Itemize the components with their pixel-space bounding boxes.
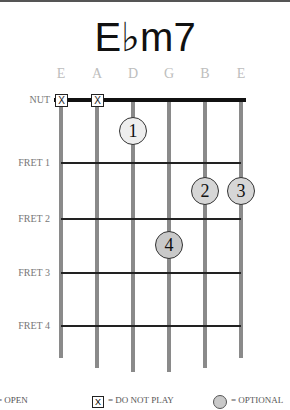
fret-label-1: FRET 1: [0, 157, 50, 168]
fret-label-2: FRET 2: [0, 213, 50, 224]
string-label-a: A: [87, 66, 107, 82]
fret-1-line: [61, 162, 241, 164]
fret-3-line: [61, 272, 241, 274]
finger-dot-4: 4: [155, 231, 183, 259]
string-b: [203, 100, 207, 368]
mute-x-icon-a: X: [91, 94, 104, 107]
nut-label: NUT: [0, 94, 50, 105]
legend-optional: = OPTIONAL: [231, 395, 283, 405]
legend-open: = OPEN: [0, 395, 28, 405]
mute-x-icon-low-e: X: [55, 94, 68, 107]
string-low-e: [59, 100, 63, 358]
legend-do-not-play: = DO NOT PLAY: [108, 395, 174, 405]
chord-title: E♭m7: [0, 14, 290, 60]
string-label-g: G: [159, 66, 179, 82]
finger-dot-1: 1: [119, 117, 147, 145]
string-high-e: [239, 100, 243, 358]
nut: [54, 98, 246, 102]
top-border: [0, 0, 290, 2]
string-label-b: B: [195, 66, 215, 82]
fret-label-4: FRET 4: [0, 320, 50, 331]
fret-label-3: FRET 3: [0, 267, 50, 278]
legend-do-not-play-icon: X: [92, 396, 104, 408]
finger-dot-3: 3: [227, 177, 255, 205]
fret-4-line: [61, 325, 241, 327]
string-label-high-e: E: [231, 66, 251, 82]
string-label-d: D: [123, 66, 143, 82]
string-a: [95, 100, 99, 368]
finger-dot-2: 2: [191, 177, 219, 205]
legend-optional-icon: [213, 395, 227, 409]
fret-2-line: [61, 218, 241, 220]
string-label-low-e: E: [51, 66, 71, 82]
